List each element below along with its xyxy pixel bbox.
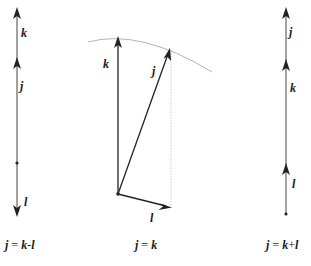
caption-j-equals-k: j = k [133,238,157,252]
label-j: j [18,79,24,93]
panel-j-equals-k: k j l j = k [88,36,212,252]
vector-j [118,54,168,194]
label-j: j [287,25,293,39]
label-k: k [21,26,27,40]
label-l: l [292,177,296,191]
origin-dot [15,161,18,164]
label-l: l [24,195,28,209]
caption-j-equals-k-minus-l: j = k-l [3,238,35,252]
origin-dot [284,212,287,215]
panel-j-equals-k-minus-l: k j l j = k-l [3,7,35,252]
label-k: k [103,57,109,71]
angular-momentum-coupling-diagram: k j l j = k-l k j l j = k [0,0,311,266]
label-k: k [290,81,296,95]
caption-j-equals-k-plus-l: j = k+l [264,238,299,252]
label-l: l [150,211,154,225]
origin-dot [116,192,120,196]
label-j: j [150,64,156,78]
panel-j-equals-k-plus-l: j k l j = k+l [264,7,299,252]
vector-l [118,194,166,206]
